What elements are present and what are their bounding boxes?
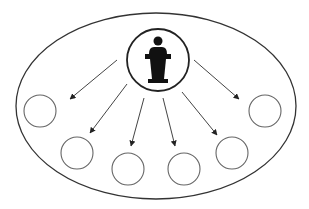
arrow-to-audience-1 <box>70 60 117 99</box>
audience-member-node-6 <box>249 95 281 127</box>
audience-group <box>24 95 281 185</box>
arrow-to-audience-2 <box>90 84 127 133</box>
audience-member-node-2 <box>61 137 93 169</box>
arrow-to-audience-6 <box>194 60 239 99</box>
audience-member-node-4 <box>168 153 200 185</box>
arrow-to-audience-3 <box>131 98 144 146</box>
diagram-canvas: One speaker broadcasting to an audience <box>0 0 309 209</box>
speaker-node <box>127 29 189 91</box>
audience-member-node-5 <box>216 137 248 169</box>
audience-member-node-3 <box>112 153 144 185</box>
arrow-to-audience-5 <box>182 92 217 135</box>
arrow-to-audience-4 <box>163 98 175 146</box>
audience-member-node-1 <box>24 95 56 127</box>
broadcast-diagram <box>0 0 309 209</box>
